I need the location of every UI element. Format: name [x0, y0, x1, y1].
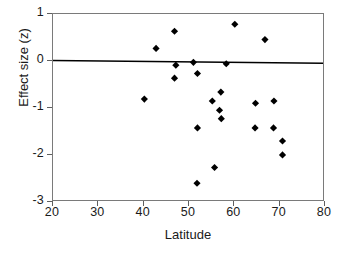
x-tick-label: 20: [32, 205, 72, 219]
data-point: [218, 115, 225, 122]
data-point: [261, 36, 268, 43]
data-point: [171, 75, 178, 82]
data-point: [172, 62, 179, 69]
scatter-plot-figure: 20304050607080 10-1-2-3 Latitude Effect …: [0, 0, 345, 255]
y-tick-mark: [47, 107, 52, 108]
data-point: [270, 97, 277, 104]
x-tick-label: 60: [213, 205, 253, 219]
data-point: [251, 124, 258, 131]
y-tick-mark: [47, 154, 52, 155]
data-point: [141, 96, 148, 103]
x-tick-label: 30: [77, 205, 117, 219]
y-axis-title: Effect size (z): [16, 0, 31, 148]
y-tick-mark: [47, 201, 52, 202]
x-tick-label: 40: [123, 205, 163, 219]
y-tick-label: -2: [0, 146, 44, 160]
x-tick-label: 50: [168, 205, 208, 219]
y-tick-label: -3: [0, 193, 44, 207]
data-point: [194, 124, 201, 131]
data-point: [211, 164, 218, 171]
data-layer: [53, 14, 323, 200]
data-point: [171, 28, 178, 35]
x-axis-title: Latitude: [52, 227, 324, 242]
regression-line: [53, 61, 323, 64]
data-point: [217, 89, 224, 96]
y-tick-mark: [47, 13, 52, 14]
data-point: [193, 180, 200, 187]
x-tick-label: 80: [304, 205, 344, 219]
data-point: [216, 107, 223, 114]
data-point: [252, 100, 259, 107]
data-point: [231, 21, 238, 28]
data-point: [270, 124, 277, 131]
data-point: [194, 70, 201, 77]
x-tick-label: 70: [259, 205, 299, 219]
data-point: [152, 45, 159, 52]
data-point: [209, 97, 216, 104]
data-point: [223, 60, 230, 67]
plot-area: [52, 13, 324, 201]
data-point: [279, 137, 286, 144]
y-tick-mark: [47, 60, 52, 61]
data-point: [279, 151, 286, 158]
data-point: [190, 59, 197, 66]
